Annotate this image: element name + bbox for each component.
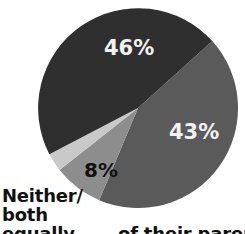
pie-label-8: 8% xyxy=(84,160,118,180)
pie-label-43: 43% xyxy=(169,122,219,143)
caption-line-1: Neither/ xyxy=(2,186,122,205)
caption-line-3: equally xyxy=(2,224,122,234)
pie-label-46: 46% xyxy=(104,38,154,59)
caption-line-2: both xyxy=(2,205,122,224)
caption-tail-text: of their parent xyxy=(118,224,245,234)
caption-neither-both-equally: Neither/ both equally xyxy=(2,186,122,234)
pie-chart: 46% 43% 8% Neither/ both equally of thei… xyxy=(0,0,245,234)
